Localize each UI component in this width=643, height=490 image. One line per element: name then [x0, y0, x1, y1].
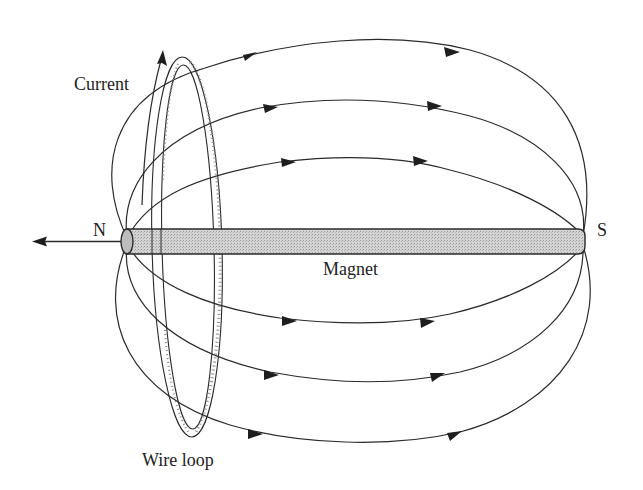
current-arrowhead-icon: [157, 50, 167, 66]
arrowhead-left-icon: [32, 237, 47, 247]
arrowhead-icon: [264, 370, 279, 380]
arrowhead-icon: [447, 431, 462, 441]
diagram-canvas: Current N S Magnet Wire loop: [0, 0, 643, 490]
magnet-loop-diagram: Current N S Magnet Wire loop: [0, 0, 643, 490]
south-pole-label: S: [597, 220, 607, 240]
arrowhead-icon: [281, 158, 296, 167]
field-line-top-middle: [126, 100, 583, 238]
arrowhead-icon: [248, 429, 263, 439]
field-line-bottom-inner: [127, 244, 583, 323]
arrowhead-icon: [420, 318, 435, 328]
arrowhead-icon: [430, 373, 445, 382]
wire-loop-label: Wire loop: [142, 450, 214, 470]
arrowhead-icon: [243, 52, 257, 61]
current-label: Current: [74, 74, 129, 94]
field-lines-top: [112, 40, 587, 238]
arrowhead-icon: [444, 47, 460, 57]
current-arrow: [142, 60, 161, 205]
magnet-label: Magnet: [323, 259, 378, 279]
north-pole-face: [121, 229, 133, 254]
field-line-top-inner: [127, 158, 583, 238]
north-pole-label: N: [93, 220, 106, 240]
arrowhead-icon: [282, 316, 297, 326]
field-line-top-outer: [112, 40, 587, 238]
bar-magnet: [121, 229, 585, 254]
